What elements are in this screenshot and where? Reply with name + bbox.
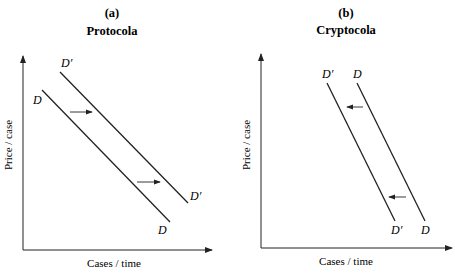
curve-label-d-top: D — [32, 93, 42, 107]
panel-b: (b) Cryptocola Price / case Cases / time… — [240, 6, 452, 267]
x-axis-label: Cases / time — [87, 257, 141, 269]
curve-label-d-prime-top: D′ — [60, 56, 73, 70]
demand-shift-diagram: (a) Protocola Price / case Cases / time … — [0, 0, 455, 273]
panel-b-letter: (b) — [338, 6, 353, 20]
curve-label-d-prime-bottom: D′ — [189, 189, 202, 203]
curve-label-d-prime-bottom: D′ — [390, 223, 403, 237]
y-axis-label: Price / case — [240, 120, 252, 170]
demand-curve-d-prime — [327, 83, 395, 221]
demand-curve-d — [357, 83, 425, 221]
demand-curve-d-prime — [60, 72, 188, 203]
curve-label-d-top: D — [352, 67, 362, 81]
curve-label-d-bottom: D — [157, 223, 167, 237]
panel-b-title: Cryptocola — [316, 23, 376, 37]
demand-curve-d — [42, 90, 170, 222]
curve-label-d-bottom: D — [420, 223, 430, 237]
y-axis-label: Price / case — [2, 120, 14, 170]
panel-a-title: Protocola — [86, 24, 138, 38]
x-axis-label: Cases / time — [319, 255, 373, 267]
panel-a: (a) Protocola Price / case Cases / time … — [2, 6, 212, 269]
panel-a-letter: (a) — [105, 6, 120, 20]
curve-label-d-prime-top: D′ — [321, 67, 334, 81]
